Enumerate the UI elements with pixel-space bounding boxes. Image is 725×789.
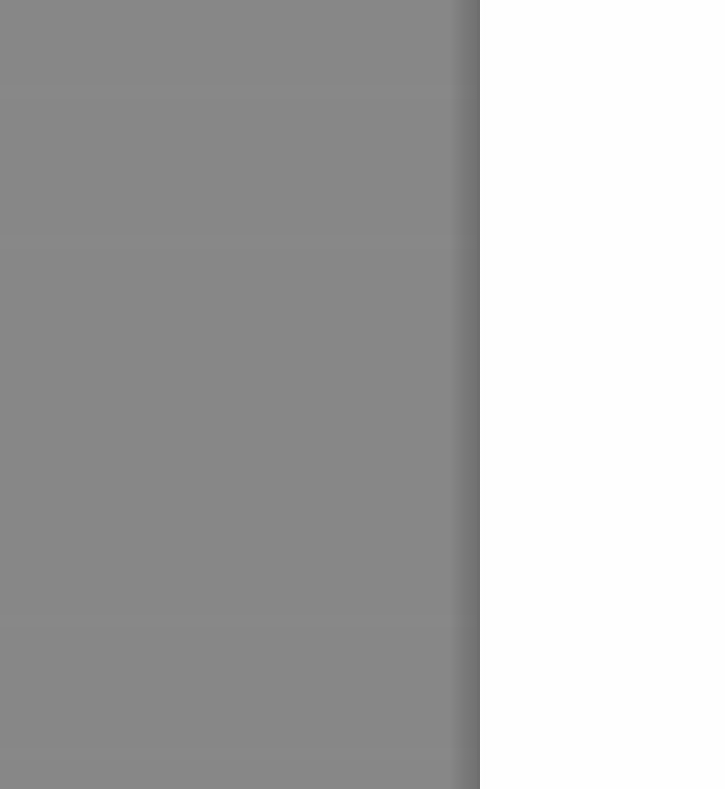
obscured-text-block [0,748,477,760]
obscured-text-block [0,85,477,99]
obscured-text-block [0,235,477,249]
app-screen [0,0,725,789]
side-drawer-panel[interactable] [480,0,725,789]
modal-scrim-backdrop[interactable] [0,0,477,789]
drawer-content-area [480,0,725,789]
obscured-text-block [0,615,477,627]
